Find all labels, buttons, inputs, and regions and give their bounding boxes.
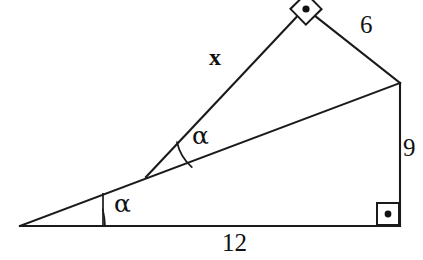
geometry-figure: x 6 9 12 α α — [0, 0, 423, 260]
segment-unknown-side — [146, 8, 305, 177]
label-base-side: 12 — [222, 230, 247, 255]
segment-upper-right-side — [305, 8, 400, 83]
segment-long-diagonal — [20, 83, 400, 226]
label-angle-alpha-lower: α — [114, 191, 131, 216]
right-angle-bottom-right-icon — [377, 203, 399, 225]
label-angle-alpha-upper: α — [192, 123, 209, 148]
label-unknown-side: x — [209, 45, 221, 69]
right-angle-top-icon — [290, 0, 321, 25]
label-vertical-side: 9 — [403, 135, 416, 160]
label-upper-side: 6 — [360, 12, 373, 37]
figure-canvas — [0, 0, 423, 260]
